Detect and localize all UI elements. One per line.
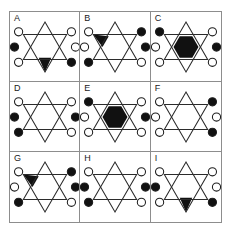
dot-upper-left-filled xyxy=(84,97,92,105)
dot-upper-right-open xyxy=(208,27,216,35)
dot-upper-left-open xyxy=(14,97,22,105)
option-cell-b[interactable]: B xyxy=(80,12,150,82)
star-figure-b xyxy=(83,16,147,80)
dot-lower-right-open xyxy=(137,198,145,206)
star-triangle-up xyxy=(23,22,66,60)
option-cell-i[interactable]: I xyxy=(151,152,221,222)
dot-left-open xyxy=(151,42,159,50)
dot-right-filled xyxy=(141,42,149,50)
dot-left-filled xyxy=(10,112,18,120)
dot-lower-right-filled xyxy=(208,128,216,136)
puzzle-figure: ABCDEFGHI xyxy=(0,0,232,234)
star-figure-f xyxy=(154,86,218,150)
dot-lower-right-open xyxy=(67,128,75,136)
star-triangle-down xyxy=(93,175,136,213)
option-cell-c[interactable]: C xyxy=(151,12,221,82)
dot-right-filled xyxy=(71,112,79,120)
option-cell-a[interactable]: A xyxy=(10,12,80,82)
star-triangle-up xyxy=(164,92,207,130)
dot-lower-left-open xyxy=(14,58,22,66)
dot-lower-left-open xyxy=(155,198,163,206)
dot-right-open xyxy=(212,183,220,191)
dot-left-open xyxy=(10,183,18,191)
dot-lower-left-open xyxy=(155,58,163,66)
dot-lower-right-open xyxy=(208,58,216,66)
dot-lower-right-filled xyxy=(67,58,75,66)
star-triangle-up xyxy=(164,162,207,200)
dot-left-open xyxy=(151,112,159,120)
star-triangle-down xyxy=(23,104,66,142)
dot-lower-left-filled xyxy=(14,198,22,206)
option-cell-h[interactable]: H xyxy=(80,152,150,222)
dot-upper-left-open xyxy=(84,168,92,176)
dot-upper-left-filled xyxy=(155,27,163,35)
dot-upper-right-open xyxy=(137,97,145,105)
dot-left-filled xyxy=(80,183,88,191)
dot-upper-right-filled xyxy=(67,168,75,176)
dot-right-open xyxy=(71,42,79,50)
dot-lower-left-filled xyxy=(84,58,92,66)
dot-right-filled xyxy=(141,112,149,120)
dot-lower-left-filled xyxy=(14,128,22,136)
dot-lower-right-open xyxy=(67,198,75,206)
star-triangle-up xyxy=(23,92,66,130)
dot-upper-right-filled xyxy=(208,97,216,105)
dot-upper-left-open xyxy=(155,168,163,176)
dot-upper-right-filled xyxy=(137,27,145,35)
star-figure-a xyxy=(13,16,77,80)
star-figure-d xyxy=(13,86,77,150)
option-cell-e[interactable]: E xyxy=(80,82,150,152)
star-figure-e xyxy=(83,86,147,150)
dot-upper-left-open xyxy=(155,97,163,105)
star-figure-i xyxy=(154,156,218,220)
dot-upper-right-open xyxy=(67,97,75,105)
dot-lower-right-open xyxy=(137,128,145,136)
option-cell-g[interactable]: G xyxy=(10,152,80,222)
dot-upper-right-open xyxy=(67,27,75,35)
dot-lower-left-open xyxy=(84,128,92,136)
dot-left-filled xyxy=(10,42,18,50)
answer-option-grid: ABCDEFGHI xyxy=(9,11,222,223)
option-cell-d[interactable]: D xyxy=(10,82,80,152)
dot-upper-right-open xyxy=(208,168,216,176)
star-center-hexagon-fill xyxy=(173,36,198,58)
dot-upper-left-open xyxy=(14,27,22,35)
dot-lower-left-open xyxy=(155,128,163,136)
star-triangle-down xyxy=(164,104,207,142)
star-figure-h xyxy=(83,156,147,220)
dot-lower-right-filled xyxy=(208,198,216,206)
star-figure-c xyxy=(154,16,218,80)
dot-lower-left-filled xyxy=(84,198,92,206)
dot-upper-left-open xyxy=(14,168,22,176)
dot-upper-right-open xyxy=(137,168,145,176)
star-triangle-up xyxy=(93,162,136,200)
dot-left-open xyxy=(80,112,88,120)
dot-right-filled xyxy=(141,183,149,191)
dot-right-filled xyxy=(212,42,220,50)
star-center-hexagon-fill xyxy=(102,106,127,128)
dot-left-open xyxy=(80,42,88,50)
star-figure-g xyxy=(13,156,77,220)
dot-right-filled xyxy=(71,183,79,191)
dot-right-open xyxy=(212,112,220,120)
dot-upper-left-open xyxy=(84,27,92,35)
dot-lower-right-open xyxy=(137,58,145,66)
dot-left-filled xyxy=(151,183,159,191)
option-cell-f[interactable]: F xyxy=(151,82,221,152)
